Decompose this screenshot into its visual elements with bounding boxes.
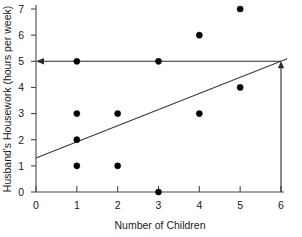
chart-canvas: 01234567 0123456 Number of Children Husb… [0, 0, 302, 237]
y-tick-label: 0 [18, 186, 24, 198]
y-tick-label: 1 [18, 160, 24, 172]
axis-tick-marks [31, 9, 281, 192]
x-tick-label: 0 [33, 199, 39, 211]
data-point [237, 6, 243, 12]
x-axis-tick-labels: 0123456 [33, 199, 284, 211]
data-point [74, 137, 80, 143]
data-point [74, 163, 80, 169]
x-axis-title: Number of Children [114, 219, 205, 231]
data-point [115, 163, 121, 169]
scatter-plot-figure: 01234567 0123456 Number of Children Husb… [0, 0, 302, 237]
y-tick-label: 3 [18, 107, 24, 119]
x-tick-label: 1 [74, 199, 80, 211]
y-tick-label: 7 [18, 3, 24, 15]
y-tick-label: 4 [18, 81, 24, 93]
x-tick-label: 4 [196, 199, 202, 211]
data-point [155, 189, 161, 195]
data-point [74, 58, 80, 64]
data-point [115, 110, 121, 116]
data-point [237, 84, 243, 90]
x-tick-label: 5 [237, 199, 243, 211]
horizontal-guide-arrowhead [36, 58, 44, 64]
data-point-group [74, 6, 244, 195]
y-axis-tick-labels: 01234567 [18, 3, 24, 198]
x-tick-label: 3 [156, 199, 162, 211]
y-axis-title: Husband's Housework (hours per week) [1, 6, 13, 192]
data-point [74, 110, 80, 116]
y-tick-label: 6 [18, 29, 24, 41]
y-tick-label: 5 [18, 55, 24, 67]
data-point [196, 110, 202, 116]
x-tick-label: 6 [278, 199, 284, 211]
data-point [155, 58, 161, 64]
data-point [196, 32, 202, 38]
x-tick-label: 2 [115, 199, 121, 211]
y-tick-label: 2 [18, 134, 24, 146]
regression-line [36, 59, 287, 158]
